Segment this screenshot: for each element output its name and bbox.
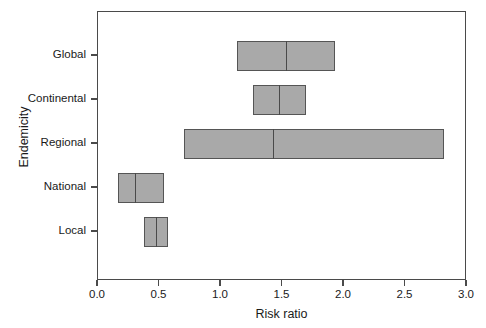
risk-ratio-chart: GlobalContinentalRegionalNationalLocal 0… — [0, 0, 486, 328]
x-tick-0.5 — [158, 280, 159, 286]
median-line-local — [156, 217, 157, 247]
y-tick-label-regional: Regional — [41, 137, 86, 149]
y-tick-global — [91, 54, 97, 55]
x-tick-label-3.0: 3.0 — [446, 289, 486, 301]
bar-regional — [184, 129, 444, 159]
median-line-continental — [279, 85, 280, 115]
x-tick-label-0.5: 0.5 — [139, 289, 179, 301]
x-tick-label-2.5: 2.5 — [385, 289, 425, 301]
plot-area — [97, 11, 466, 280]
y-tick-label-national: National — [44, 181, 86, 193]
y-tick-label-continental: Continental — [28, 93, 86, 105]
median-line-national — [135, 173, 136, 203]
x-tick-3.0 — [465, 280, 466, 286]
x-tick-label-2.0: 2.0 — [323, 289, 363, 301]
median-line-regional — [273, 129, 274, 159]
y-tick-national — [91, 186, 97, 187]
median-line-global — [286, 41, 287, 71]
x-axis-title: Risk ratio — [97, 307, 466, 321]
x-tick-0.0 — [96, 280, 97, 286]
y-tick-label-global: Global — [53, 49, 86, 61]
x-tick-1.0 — [219, 280, 220, 286]
y-axis-title: Endemicity — [17, 57, 31, 217]
y-tick-local — [91, 230, 97, 231]
x-tick-label-0.0: 0.0 — [77, 289, 117, 301]
y-tick-continental — [91, 98, 97, 99]
x-tick-label-1.5: 1.5 — [262, 289, 302, 301]
x-tick-2.0 — [342, 280, 343, 286]
bar-national — [118, 173, 165, 203]
y-tick-regional — [91, 142, 97, 143]
x-tick-1.5 — [281, 280, 282, 286]
x-tick-2.5 — [404, 280, 405, 286]
x-tick-label-1.0: 1.0 — [200, 289, 240, 301]
y-tick-label-local: Local — [59, 225, 87, 237]
